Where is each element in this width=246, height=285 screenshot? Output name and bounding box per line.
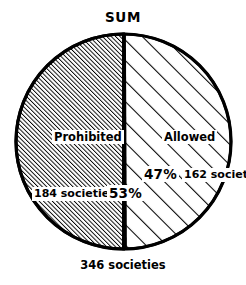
pie-divider (125, 34, 126, 249)
pie-chart-graphic: Prohibited Allowed 47% 162 societies 184… (14, 32, 233, 251)
pie-label-prohibited: Prohibited (52, 130, 124, 144)
pie-percent-prohibited: 53% (107, 185, 144, 201)
pie-value-prohibited: 184 societies (32, 187, 118, 201)
pie-label-allowed: Allowed (162, 130, 217, 144)
chart-title: SUM (0, 9, 246, 25)
pie-value-allowed: 162 societies (182, 168, 246, 182)
pie-chart-figure: SUM (0, 0, 246, 285)
pie-percent-allowed: 47% (142, 166, 179, 182)
chart-total-caption: 346 societies (0, 258, 246, 272)
